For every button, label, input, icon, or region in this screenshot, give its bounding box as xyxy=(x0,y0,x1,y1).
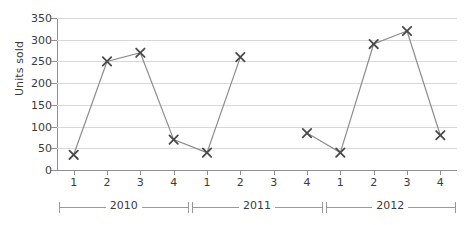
x-tick-0 xyxy=(74,170,75,175)
y-tick-350 xyxy=(51,18,57,19)
y-tick-50 xyxy=(51,148,57,149)
x-tick-label-11: 4 xyxy=(430,176,450,189)
year-cap-2010-start xyxy=(59,202,60,213)
x-tick-2 xyxy=(140,170,141,175)
line-chart: Units sold 050100150200250300350 1234123… xyxy=(0,0,464,225)
y-tick-300 xyxy=(51,40,57,41)
x-tick-5 xyxy=(240,170,241,175)
x-tick-label-6: 3 xyxy=(264,176,284,189)
y-tick-150 xyxy=(51,105,57,106)
y-tick-label-250: 250 xyxy=(31,56,52,67)
series-line-segment xyxy=(74,53,241,155)
data-point-marker xyxy=(336,148,344,156)
data-point-marker xyxy=(69,151,77,159)
y-tick-label-50: 50 xyxy=(38,143,52,154)
data-point-marker xyxy=(369,40,377,48)
y-tick-label-200: 200 xyxy=(31,78,52,89)
x-tick-6 xyxy=(274,170,275,175)
year-cap-2012-start xyxy=(326,202,327,213)
year-label-2011: 2011 xyxy=(239,199,275,212)
plot-area xyxy=(57,18,457,170)
data-point-marker xyxy=(169,135,177,143)
year-label-2010: 2010 xyxy=(106,199,142,212)
x-tick-label-5: 2 xyxy=(230,176,250,189)
year-cap-2010-end xyxy=(188,202,189,213)
x-tick-label-4: 1 xyxy=(197,176,217,189)
y-tick-label-150: 150 xyxy=(31,99,52,110)
x-tick-1 xyxy=(107,170,108,175)
year-cap-2011-start xyxy=(192,202,193,213)
y-tick-label-100: 100 xyxy=(31,121,52,132)
year-label-2012: 2012 xyxy=(372,199,408,212)
data-point-marker xyxy=(403,27,411,35)
x-tick-label-3: 4 xyxy=(164,176,184,189)
y-tick-100 xyxy=(51,127,57,128)
y-tick-label-350: 350 xyxy=(31,13,52,24)
year-cap-2012-end xyxy=(455,202,456,213)
x-tick-11 xyxy=(440,170,441,175)
x-tick-label-7: 4 xyxy=(297,176,317,189)
x-axis-tick-labels: 123412341234 xyxy=(57,176,457,192)
x-tick-7 xyxy=(307,170,308,175)
year-cap-2011-end xyxy=(322,202,323,213)
x-tick-9 xyxy=(374,170,375,175)
x-tick-10 xyxy=(407,170,408,175)
x-tick-label-9: 2 xyxy=(364,176,384,189)
x-tick-label-1: 2 xyxy=(97,176,117,189)
x-tick-label-8: 1 xyxy=(330,176,350,189)
x-tick-8 xyxy=(340,170,341,175)
data-point-marker xyxy=(236,53,244,61)
x-tick-label-10: 3 xyxy=(397,176,417,189)
x-tick-label-2: 3 xyxy=(130,176,150,189)
y-axis-tick-labels: 050100150200250300350 xyxy=(22,0,52,225)
y-tick-label-300: 300 xyxy=(31,34,52,45)
y-tick-250 xyxy=(51,61,57,62)
data-point-marker xyxy=(436,131,444,139)
y-tick-200 xyxy=(51,83,57,84)
data-point-marker xyxy=(303,129,311,137)
x-tick-3 xyxy=(174,170,175,175)
year-group-axis: 201020112012 xyxy=(57,198,457,218)
x-tick-label-0: 1 xyxy=(64,176,84,189)
data-point-marker xyxy=(203,148,211,156)
series-layer xyxy=(57,18,457,170)
series-line-segment xyxy=(307,31,440,153)
x-tick-4 xyxy=(207,170,208,175)
data-point-marker xyxy=(103,57,111,65)
data-point-marker xyxy=(136,49,144,57)
y-tick-0 xyxy=(51,170,57,171)
